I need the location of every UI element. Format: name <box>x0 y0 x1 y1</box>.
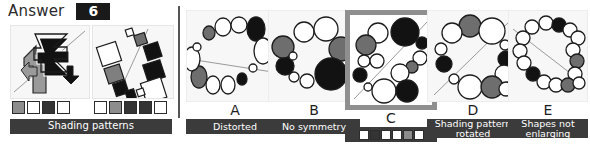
swatch-white <box>57 101 70 114</box>
swatch-white <box>154 101 167 114</box>
option-e-caption: Shapes not enlarging <box>508 119 588 138</box>
option-e-letter: E <box>508 103 588 117</box>
option-d-letter: D <box>427 103 519 117</box>
swatch-white <box>27 101 40 114</box>
stimulus-panel-right <box>92 25 174 99</box>
answer-review-screen: Answer 6 <box>0 0 590 147</box>
swatch-dark <box>124 101 137 114</box>
swatch-white <box>94 101 107 114</box>
answer-label: Answer <box>8 2 64 20</box>
option-d-caption: Shading pattern rotated <box>427 119 519 138</box>
swatch-dark <box>370 130 380 140</box>
swatch-gray <box>12 101 25 114</box>
option-c-caption-swatches <box>345 127 437 142</box>
option-e[interactable]: E Shapes not enlarging <box>508 10 588 138</box>
answer-header: Answer 6 <box>8 2 110 20</box>
shading-swatches-left <box>12 101 70 114</box>
swatch-white <box>359 130 369 140</box>
option-c-letter: C <box>345 111 437 125</box>
option-d[interactable]: D Shading pattern rotated <box>427 10 519 138</box>
answer-value-badge: 6 <box>76 3 110 20</box>
stimulus-caption: Shading patterns <box>10 119 172 134</box>
swatch-dark <box>42 101 55 114</box>
non-enlarging-circle-ring <box>509 11 587 101</box>
swatch-gray <box>403 130 413 140</box>
rotated-squares-figure <box>93 26 173 98</box>
option-d-figure <box>427 10 519 102</box>
option-c-figure <box>345 10 437 110</box>
selected-circle-pattern <box>350 15 432 105</box>
arrow-zigzag-figure <box>11 26 89 98</box>
vertical-divider <box>178 6 180 118</box>
swatch-dark <box>139 101 152 114</box>
option-c[interactable]: C <box>345 10 437 142</box>
swatch-white <box>381 130 391 140</box>
swatch-white <box>414 130 424 140</box>
rotated-shading-circle-ring <box>428 11 518 101</box>
option-e-figure <box>508 10 588 102</box>
stimulus-panel-left <box>10 25 90 99</box>
swatch-gray <box>109 101 122 114</box>
shading-swatches-right <box>94 101 167 114</box>
swatch-white <box>392 130 402 140</box>
